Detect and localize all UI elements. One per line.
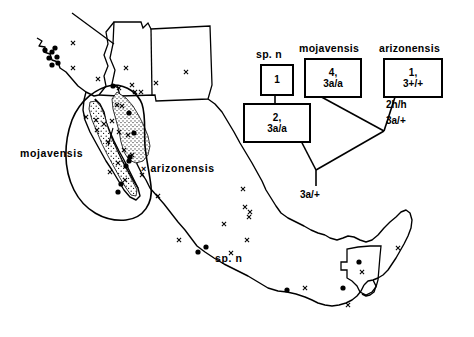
internal-label-3a-plus-upper: 3a/+	[386, 114, 406, 127]
diagram-taxon-arizonensis: arizonensis	[379, 42, 440, 54]
diagram-taxon-mojavensis: mojavensis	[299, 42, 359, 54]
node-mojavensis-line1: 4,	[329, 67, 337, 79]
edge-karyotype-to-root	[300, 139, 316, 170]
edge-mojavensis-to-node	[316, 94, 384, 131]
node-box-sp-n: 1	[260, 64, 294, 96]
node-box-sp-n-karyotype: 2, 3a/a	[243, 103, 311, 143]
node-karyotype-line1: 2,	[273, 112, 281, 124]
node-box-mojavensis: 4, 3a/a	[304, 58, 362, 98]
node-mojavensis-line2: 3a/a	[323, 78, 342, 90]
node-sp-n-line1: 1	[274, 74, 280, 86]
node-karyotype-line2: 3a/a	[267, 123, 286, 135]
node-arizonensis-line2: 3+/+	[403, 78, 423, 90]
node-arizonensis-line1: 1,	[409, 67, 417, 79]
edge-node-to-root	[316, 131, 384, 170]
node-box-arizonensis: 1, 3+/+	[383, 58, 443, 98]
figure-root: mojavensis × arizonensis sp. n sp.	[0, 0, 474, 337]
diagram-taxon-sp-n: sp. n	[256, 48, 282, 60]
root-label-3a-plus: 3a/+	[300, 188, 320, 201]
internal-label-2hh: 2h/h	[386, 98, 407, 111]
